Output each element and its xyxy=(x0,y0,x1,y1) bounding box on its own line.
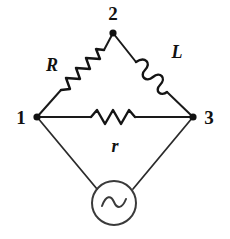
wire-node1-to-source xyxy=(37,117,97,189)
branch-source xyxy=(37,117,193,225)
ac-source-sine-wave-icon xyxy=(102,197,126,207)
component-label-L: L xyxy=(171,42,183,62)
node-dot-1 xyxy=(33,113,40,120)
node-dot-2 xyxy=(109,29,116,36)
node-label-2: 2 xyxy=(108,3,118,24)
inductor-L-symbol xyxy=(136,60,167,94)
wire-node2-to-inductor-L xyxy=(113,33,136,62)
node-dot-3 xyxy=(189,113,196,120)
resistor-r-symbol xyxy=(91,110,135,124)
node-label-3: 3 xyxy=(204,107,214,128)
node-label-1: 1 xyxy=(16,107,26,128)
circuit-canvas: 2 1 3 R L r xyxy=(0,0,230,239)
wire-node1-to-resistor-R xyxy=(37,90,61,117)
circuit-diagram-figure: 2 1 3 R L r xyxy=(0,0,230,239)
branch-node1-node3 xyxy=(37,110,193,124)
resistor-R-symbol xyxy=(61,49,104,90)
wire-inductor-L-to-node3 xyxy=(167,92,193,117)
branch-node1-node2 xyxy=(37,33,113,117)
component-label-R: R xyxy=(45,55,58,75)
wire-node3-to-source xyxy=(133,117,193,189)
component-label-r: r xyxy=(111,136,119,156)
